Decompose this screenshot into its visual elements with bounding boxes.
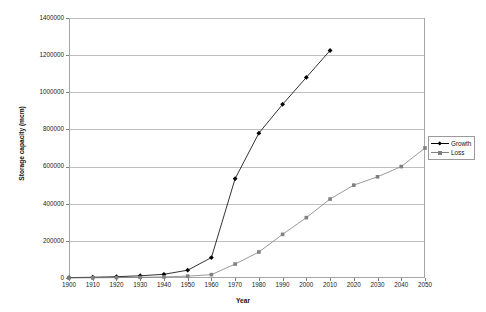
legend-marker-icon bbox=[431, 148, 449, 157]
x-tick-label: 1950 bbox=[181, 282, 195, 288]
x-tick-mark bbox=[306, 278, 307, 281]
y-axis-title-wrapper: Storage capacity (mcm) bbox=[8, 0, 22, 312]
legend-label: Loss bbox=[449, 148, 464, 157]
legend-label: Growth bbox=[449, 139, 471, 148]
x-tick-mark bbox=[211, 278, 212, 281]
gridline bbox=[70, 92, 424, 93]
gridline bbox=[70, 204, 424, 205]
x-tick-mark bbox=[259, 278, 260, 281]
gridline bbox=[70, 241, 424, 242]
plot-area bbox=[69, 18, 425, 278]
x-tick-label: 1990 bbox=[276, 282, 290, 288]
x-tick-mark bbox=[330, 278, 331, 281]
x-tick-label: 2010 bbox=[323, 282, 337, 288]
x-tick-mark bbox=[378, 278, 379, 281]
x-axis-labels: 1900191019201930194019501960197019801990… bbox=[0, 282, 486, 296]
chart-container: 0200000400000600000800000100000012000001… bbox=[0, 0, 486, 312]
gridline bbox=[70, 167, 424, 168]
x-tick-label: 1980 bbox=[252, 282, 266, 288]
x-tick-mark bbox=[93, 278, 94, 281]
gridline bbox=[70, 129, 424, 130]
x-tick-label: 2000 bbox=[299, 282, 313, 288]
x-tick-label: 1960 bbox=[204, 282, 218, 288]
x-tick-label: 1900 bbox=[62, 282, 76, 288]
legend-marker-icon bbox=[431, 139, 449, 148]
legend-item-growth[interactable]: Growth bbox=[431, 139, 471, 148]
x-tick-mark bbox=[116, 278, 117, 281]
x-axis-title: Year bbox=[0, 297, 486, 304]
gridline bbox=[70, 18, 424, 19]
x-tick-mark bbox=[401, 278, 402, 281]
x-tick-label: 1910 bbox=[86, 282, 100, 288]
x-tick-mark bbox=[164, 278, 165, 281]
x-tick-mark bbox=[283, 278, 284, 281]
legend-item-loss[interactable]: Loss bbox=[431, 148, 471, 157]
x-tick-mark bbox=[425, 278, 426, 281]
x-tick-label: 1970 bbox=[228, 282, 242, 288]
x-tick-mark bbox=[354, 278, 355, 281]
x-tick-mark bbox=[69, 278, 70, 281]
x-tick-label: 2020 bbox=[347, 282, 361, 288]
x-tick-label: 2030 bbox=[371, 282, 385, 288]
y-axis-title: Storage capacity (mcm) bbox=[18, 84, 25, 204]
x-tick-label: 1920 bbox=[109, 282, 123, 288]
x-tick-mark bbox=[235, 278, 236, 281]
chart-legend: GrowthLoss bbox=[428, 136, 475, 160]
x-tick-label: 2050 bbox=[418, 282, 432, 288]
x-tick-label: 2040 bbox=[394, 282, 408, 288]
x-tick-mark bbox=[188, 278, 189, 281]
x-tick-label: 1940 bbox=[157, 282, 171, 288]
x-tick-mark bbox=[140, 278, 141, 281]
gridline bbox=[70, 55, 424, 56]
x-tick-label: 1930 bbox=[133, 282, 147, 288]
